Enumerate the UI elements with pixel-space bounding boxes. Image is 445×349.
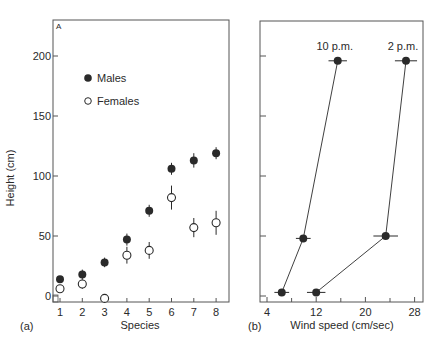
y-tick-label: 200 (33, 50, 51, 62)
plot-frame (260, 21, 423, 302)
data-point (145, 207, 153, 215)
x-tick-label: 4 (124, 306, 130, 318)
panel-a-height-by-species: A05010015020012345678SpeciesHeight (cm)(… (4, 20, 229, 332)
data-point (168, 165, 176, 173)
data-point (101, 294, 109, 302)
legend-label-females: Females (97, 95, 140, 107)
x-tick-label: 3 (102, 306, 108, 318)
legend-label-males: Males (97, 72, 127, 84)
y-axis-label: Height (cm) (4, 150, 16, 207)
data-point (123, 236, 131, 244)
data-point (56, 275, 64, 283)
y-tick-label: 0 (45, 290, 51, 302)
data-point (382, 232, 390, 240)
figure: A05010015020012345678SpeciesHeight (cm)(… (0, 0, 445, 349)
series-2-p-m-: 2 p.m. (307, 40, 418, 297)
y-tick-label: 150 (33, 110, 51, 122)
data-point (123, 251, 131, 259)
x-tick-label: 1 (57, 306, 63, 318)
data-point (145, 246, 153, 254)
data-point (312, 288, 320, 296)
x-tick-label: 20 (359, 306, 371, 318)
panel-a-tag: (a) (20, 320, 33, 332)
series-line (316, 61, 406, 293)
x-tick-label: 8 (213, 306, 219, 318)
series-label: 2 p.m. (388, 40, 419, 52)
y-tick-label: 50 (39, 230, 51, 242)
x-tick-label: 12 (310, 306, 322, 318)
series-females (56, 186, 220, 303)
data-point (334, 57, 342, 65)
x-tick-label: 4 (264, 306, 270, 318)
x-tick-label: 2 (79, 306, 85, 318)
data-point (278, 288, 286, 296)
x-tick-label: 5 (146, 306, 152, 318)
legend: MalesFemales (84, 72, 139, 107)
data-point (190, 156, 198, 164)
x-tick-label: 7 (191, 306, 197, 318)
x-axis-label: Wind speed (cm/sec) (290, 319, 393, 331)
data-point (212, 219, 220, 227)
data-point (402, 57, 410, 65)
data-point (78, 270, 86, 278)
plot-frame (53, 20, 229, 302)
panel-corner-label: A (56, 22, 62, 31)
legend-marker-open-circle-icon (85, 98, 92, 105)
series-label: 10 p.m. (316, 40, 353, 52)
data-point (168, 194, 176, 202)
y-tick-label: 100 (33, 170, 51, 182)
x-tick-label: 28 (408, 306, 420, 318)
data-point (56, 285, 64, 293)
series-males (56, 147, 220, 283)
panel-b-tag: (b) (248, 320, 261, 332)
data-point (190, 224, 198, 232)
series-line (282, 61, 338, 293)
data-point (299, 234, 307, 242)
data-point (212, 149, 220, 157)
series-10-p-m-: 10 p.m. (274, 40, 353, 297)
data-point (101, 258, 109, 266)
legend-marker-filled-circle-icon (84, 74, 92, 82)
data-point (78, 280, 86, 288)
panel-b-height-by-wind-speed: 4122028Wind speed (cm/sec)(b)10 p.m.2 p.… (248, 21, 423, 332)
x-axis-label: Species (120, 319, 160, 331)
x-tick-label: 6 (168, 306, 174, 318)
